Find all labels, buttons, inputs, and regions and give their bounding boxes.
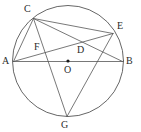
center-dot <box>66 59 69 62</box>
point-label-A: A <box>2 56 9 66</box>
point-marks <box>66 59 69 62</box>
segment-CG <box>34 19 68 117</box>
point-label-D: D <box>77 45 84 55</box>
point-label-G: G <box>61 120 68 130</box>
segment-CE <box>34 19 114 34</box>
point-label-E: E <box>117 21 123 31</box>
point-label-B: B <box>126 56 133 66</box>
point-label-O: O <box>64 65 71 75</box>
geometry-figure: A B C E G D F O <box>0 0 141 132</box>
point-label-C: C <box>24 4 31 14</box>
segment-AE <box>14 34 114 62</box>
point-label-F: F <box>34 42 40 52</box>
